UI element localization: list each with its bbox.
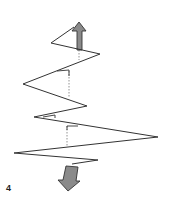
- figure-number-label: 4: [6, 183, 11, 193]
- zigzag-diagram: [0, 0, 175, 205]
- down-arrow-icon: [58, 166, 80, 191]
- up-arrow-icon: [72, 22, 86, 50]
- zigzag-path: [14, 27, 158, 164]
